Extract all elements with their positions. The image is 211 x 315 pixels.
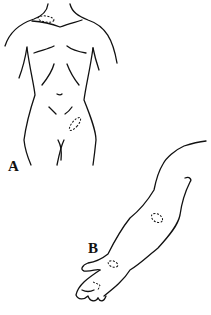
- torso-outline: [5, 4, 117, 165]
- torso-diagram: [0, 0, 211, 315]
- marked-site-wrist: [107, 259, 118, 268]
- arm-outline: [76, 141, 206, 301]
- panel-label-a: A: [8, 158, 19, 175]
- marked-site-elbow: [150, 212, 164, 225]
- marked-site-palm: [93, 282, 100, 290]
- panel-label-b: B: [88, 240, 98, 257]
- marked-site-groin: [68, 116, 83, 132]
